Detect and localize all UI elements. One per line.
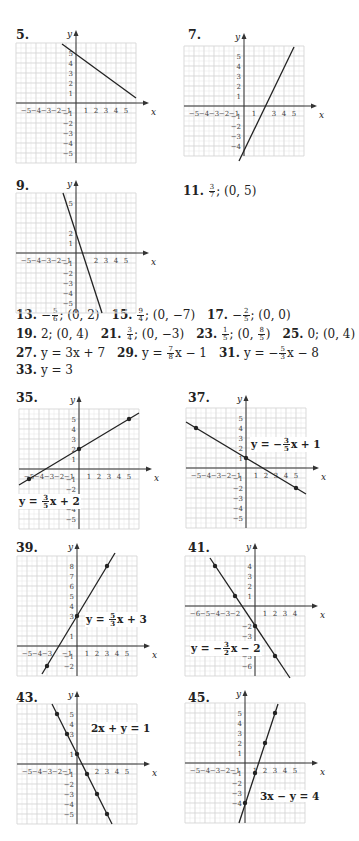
problem-number: 11. <box>183 184 204 198</box>
x-tick-label: 4 <box>282 110 287 118</box>
problem-number: 29. <box>117 346 138 360</box>
y-tick-label: 2 <box>69 230 73 238</box>
x-tick-label: 2 <box>94 107 98 115</box>
y-tick-label: 5 <box>70 711 74 719</box>
x-tick-label: 4 <box>114 107 119 115</box>
x-tick-label: −5 <box>22 768 32 776</box>
plotted-point <box>294 486 298 490</box>
y-tick-label: −2 <box>233 485 243 493</box>
y-axis-label: y <box>235 689 242 699</box>
x-tick-label: −5 <box>191 472 201 480</box>
problem-number: 25. <box>283 327 304 341</box>
problem-number: 37. <box>188 390 210 405</box>
y-tick-label: 2 <box>239 445 243 453</box>
y-tick-label: −2 <box>63 120 73 128</box>
y-tick-label: −2 <box>231 123 241 131</box>
x-axis-arrow-icon <box>312 761 318 766</box>
y-tick-label: −2 <box>232 780 242 788</box>
y-tick-label: 2 <box>238 740 242 748</box>
x-axis-arrow-icon <box>143 101 149 106</box>
y-tick-label: 3 <box>239 435 243 443</box>
x-tick-label: 4 <box>284 472 289 480</box>
x-tick-label: −3 <box>209 110 219 118</box>
x-tick-label: 4 <box>283 767 288 775</box>
plotted-line <box>210 558 290 678</box>
x-tick-label: 4 <box>114 257 119 265</box>
grid <box>16 43 136 163</box>
y-tick-label: −3 <box>233 495 243 503</box>
x-tick-label: −4 <box>32 650 43 658</box>
plotted-point <box>45 664 49 668</box>
y-tick-label: 3 <box>238 730 242 738</box>
fraction: 15 <box>222 327 228 342</box>
y-tick-label: −4 <box>63 140 74 148</box>
y-axis-arrow-icon <box>75 691 80 697</box>
y-tick-label: 1 <box>69 90 73 98</box>
x-tick-label: −5 <box>190 767 200 775</box>
plotted-line <box>186 422 306 494</box>
plotted-point <box>75 752 79 756</box>
y-axis-arrow-icon <box>243 690 248 696</box>
x-tick-label: −2 <box>52 768 62 776</box>
y-tick-label: 3 <box>70 613 74 621</box>
problem-number: 5. <box>16 27 29 42</box>
x-tick-label: −3 <box>41 257 51 265</box>
fraction: 25 <box>243 308 249 323</box>
fraction: 32 <box>223 641 230 656</box>
x-tick-label: −1 <box>64 473 74 481</box>
equation-label: y = −32x − 2 <box>190 641 262 656</box>
x-tick-label: 2 <box>94 257 98 265</box>
plotted-point <box>85 772 89 776</box>
equation-label: y = −35x + 1 <box>250 437 322 452</box>
x-axis-arrow-icon <box>144 644 150 649</box>
problem-number: 21. <box>101 327 122 341</box>
x-axis-label: x <box>152 768 157 778</box>
y-tick-label: −2 <box>66 486 76 494</box>
x-tick-label: 4 <box>115 650 120 658</box>
plotted-point <box>127 417 131 421</box>
answers-row-3: 27.y = 3x + 729.y = 78x − 131.y = −53x −… <box>16 346 331 361</box>
y-axis-label: y <box>66 179 73 189</box>
y-axis-arrow-icon <box>75 543 80 549</box>
answer-item: 13.−56; (0, 2) <box>16 308 100 322</box>
x-tick-label: −4 <box>199 110 210 118</box>
y-tick-label: 1 <box>238 750 242 758</box>
y-tick-label: −1 <box>233 475 243 483</box>
x-axis-label: x <box>319 110 324 120</box>
x-tick-label: 5 <box>125 650 129 658</box>
y-tick-label: −1 <box>66 476 76 484</box>
y-axis-arrow-icon <box>77 396 82 402</box>
problem-number: 17. <box>207 308 228 322</box>
y-tick-label: −3 <box>242 633 252 641</box>
x-tick-label: 5 <box>292 110 296 118</box>
y-tick-label: −1 <box>232 770 242 778</box>
y-tick-label: −1 <box>64 653 74 661</box>
problem-number: 35. <box>16 390 38 405</box>
problem-number: 27. <box>16 346 37 360</box>
x-tick-label: 5 <box>294 472 298 480</box>
answer-item: 23.15; (0, 85) <box>196 327 270 341</box>
answer-item: 27.y = 3x + 7 <box>16 346 105 360</box>
x-tick-label: 2 <box>95 650 99 658</box>
y-axis-label: y <box>67 542 74 552</box>
x-axis-arrow-icon <box>146 467 152 472</box>
y-axis-arrow-icon <box>253 543 258 549</box>
x-axis-arrow-icon <box>143 251 149 256</box>
y-axis-label: y <box>69 395 76 405</box>
y-tick-label: −1 <box>63 110 73 118</box>
y-tick-label: −4 <box>63 290 74 298</box>
x-tick-label: −2 <box>230 610 240 618</box>
x-tick-label: −3 <box>42 768 52 776</box>
y-tick-label: 4 <box>248 563 253 571</box>
fraction: 53 <box>109 612 116 627</box>
x-tick-label: −3 <box>210 767 220 775</box>
x-tick-label: 1 <box>252 110 256 118</box>
plotted-point <box>244 456 248 460</box>
x-tick-label: −2 <box>220 767 230 775</box>
grid <box>185 556 305 676</box>
